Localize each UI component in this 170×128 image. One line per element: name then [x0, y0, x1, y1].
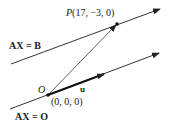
upper-line-label: AX = B: [9, 40, 41, 51]
point-o-coords: (0, 0, 0): [51, 96, 83, 108]
vector-u-label: u: [80, 84, 85, 94]
point-o-dot: [46, 93, 50, 97]
lower-line-label: AX = O: [15, 111, 48, 122]
diagram-canvas: P(17, −3, 0) AX = B O u (0, 0, 0) AX = O: [0, 0, 170, 128]
vector-u: [48, 74, 104, 95]
point-p-dot: [115, 22, 119, 26]
point-p-label: P(17, −3, 0): [65, 7, 114, 19]
point-o-label: O: [38, 84, 45, 95]
